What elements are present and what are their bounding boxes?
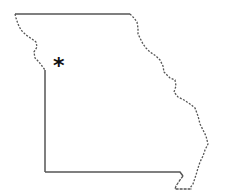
location-marker-asterisk-icon: * — [53, 55, 65, 77]
state-outline-map — [0, 0, 226, 196]
south-border — [45, 172, 183, 176]
northwest-river-border — [15, 14, 45, 70]
east-river-border — [130, 14, 208, 188]
bootheel-border — [175, 176, 192, 189]
